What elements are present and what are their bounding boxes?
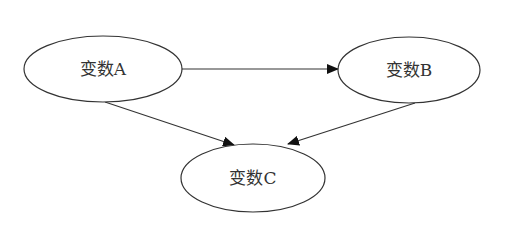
node-c-label: 变数C — [229, 168, 276, 188]
edge-b-to-c — [288, 103, 415, 144]
node-a-label: 变数A — [80, 59, 127, 79]
node-variable-b: 变数B — [338, 37, 480, 103]
node-variable-a: 变数A — [24, 36, 182, 102]
node-variable-c: 变数C — [181, 144, 325, 212]
edge-a-to-c — [105, 102, 234, 145]
node-b-label: 变数B — [386, 60, 433, 80]
causal-diagram: 变数A 变数B 变数C — [0, 0, 516, 241]
